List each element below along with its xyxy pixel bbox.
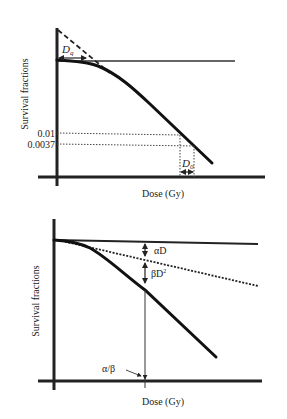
bottom-x-axis-label: Dose (Gy) (142, 396, 184, 408)
survival-curve-diagram: Dq D0 0.01 0.0037 Dose (Gy) Survival fra… (0, 0, 287, 419)
top-x-axis-label: Dose (Gy) (142, 188, 184, 200)
top-dotted-00037 (57, 144, 194, 146)
beta-d2-label: βD2 (151, 268, 166, 279)
bottom-chart: αD βD2 α/β Dose (Gy) Survival fractions (30, 219, 262, 408)
alpha-d-label: αD (154, 245, 166, 256)
top-d0-label: D0 (181, 157, 194, 171)
bottom-reference-line (54, 240, 258, 244)
alpha-beta-pointer (126, 370, 141, 376)
top-survival-curve (57, 60, 212, 163)
top-tick-00037: 0.0037 (28, 139, 56, 150)
alpha-beta-label: α/β (102, 363, 115, 374)
top-y-axis-label: Survival fractions (19, 58, 30, 129)
top-chart: Dq D0 0.01 0.0037 Dose (Gy) Survival fra… (19, 28, 265, 200)
bottom-y-axis-label: Survival fractions (30, 265, 41, 336)
top-dq-label: Dq (61, 43, 74, 57)
top-tick-001: 0.01 (38, 128, 56, 139)
top-dotted-001 (57, 133, 180, 135)
